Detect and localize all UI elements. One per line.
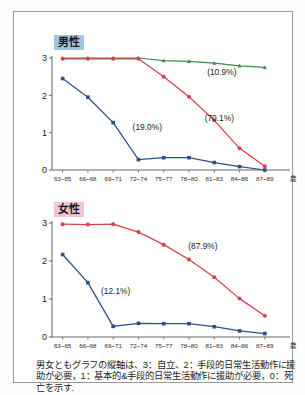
data-point-marker [162,156,166,160]
data-point-marker [111,222,115,226]
y-axis-tick-label: 3 [42,218,47,228]
x-axis-tick-label: 75~77 [155,342,173,349]
x-axis-tick-label: 63~65 [54,175,72,182]
series-blue-trajectory: (12.1%) [61,253,267,336]
data-point-marker [238,297,242,301]
chart-male: 012363~6566~6869~7172~7475~7778~8081~838… [34,52,302,192]
data-point-marker [263,164,267,168]
x-axis-tick-label: 87~89 [256,342,274,349]
data-point-marker [263,332,267,336]
figure-page: 男性 012363~6566~6869~7172~7475~7778~8081~… [0,0,305,395]
data-point-marker [238,329,242,333]
x-axis-tick-label: 81~83 [206,342,224,349]
data-point-marker [136,230,140,234]
data-point-marker [86,223,90,227]
data-point-marker [137,158,141,162]
x-axis-tick-label: 75~77 [155,175,173,182]
data-point-marker [111,121,115,125]
x-axis-tick-label: 87~89 [256,175,274,182]
series-annotation: (12.1%) [101,286,131,296]
x-axis-tick-label: 78~80 [180,175,198,182]
y-axis-tick-label: 0 [42,165,47,175]
figure-frame: 男性 012363~6566~6869~7172~7475~7778~8081~… [13,11,293,383]
data-point-marker [238,146,242,150]
series-annotation: (19.0%) [133,122,163,132]
panel-title-male: 男性 [54,35,84,50]
data-point-marker [212,325,216,329]
series-annotation: (87.9%) [188,241,218,251]
panel-title-female: 女性 [54,202,84,217]
data-point-marker [238,165,242,169]
data-point-marker [61,253,65,257]
data-point-marker [162,75,166,79]
figure-caption: 男女ともグラフの縦軸は、3：自立、2：手段的日常生活動作に援助が必要，1：基本的… [36,360,298,394]
data-point-marker [86,95,90,99]
x-axis-tick-label: 66~68 [79,175,97,182]
x-axis-tick-label: 84~86 [231,175,249,182]
y-axis-tick-label: 3 [42,53,47,63]
data-point-marker [187,322,191,326]
data-point-marker [162,243,166,247]
x-axis-tick-label: 81~83 [206,175,224,182]
x-axis-tick-label: 69~71 [104,342,122,349]
data-point-marker [162,322,166,326]
data-point-marker [187,95,191,99]
x-axis-tick-label: 69~71 [104,175,122,182]
series-line [63,224,265,316]
data-point-marker [61,222,65,226]
series-annotation: (10.9%) [207,67,237,77]
data-point-marker [263,168,267,172]
y-axis-tick-label: 0 [42,332,47,342]
data-point-marker [137,322,141,326]
x-axis-tick-label: 72~74 [130,342,148,349]
y-axis-tick-label: 2 [42,256,47,266]
data-point-marker [187,257,191,261]
data-point-marker [187,156,191,160]
x-axis-unit-label: 歳 [290,341,297,349]
series-blue-trajectory: (19.0%) [61,77,267,172]
data-point-marker [212,161,216,165]
data-point-marker [111,57,115,61]
data-point-marker [111,325,115,329]
data-point-marker [61,77,65,81]
plot-area-female: 012363~6566~6869~7172~7475~7778~8081~838… [34,217,302,359]
data-point-marker [86,57,90,61]
x-axis-tick-label: 72~74 [130,175,148,182]
y-axis-tick-label: 1 [42,294,47,304]
x-axis-unit-label: 歳 [290,174,297,182]
data-point-marker [86,281,90,285]
series-red-trajectory: (87.9%) [61,222,267,318]
y-axis-tick-label: 1 [42,128,47,138]
data-point-marker [212,275,216,279]
chart-female: 012363~6566~6869~7172~7475~7778~8081~838… [34,217,302,359]
x-axis-tick-label: 63~65 [54,342,72,349]
x-axis-tick-label: 66~68 [79,342,97,349]
x-axis-tick-label: 84~86 [231,342,249,349]
data-point-marker [136,57,140,61]
series-annotation: (70.1%) [205,113,235,123]
plot-area-male: 012363~6566~6869~7172~7475~7778~8081~838… [34,52,302,192]
y-axis-tick-label: 2 [42,91,47,101]
data-point-marker [263,314,267,318]
x-axis-tick-label: 78~80 [180,342,198,349]
data-point-marker [61,57,65,61]
